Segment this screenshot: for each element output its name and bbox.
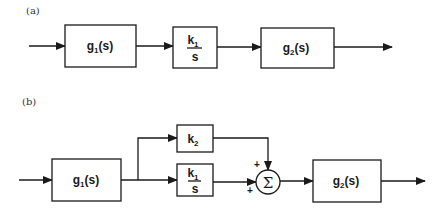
block-k1-over-s-a: k1 s <box>173 27 217 68</box>
block-diagram-canvas: (a) g1(s) k1 s g2(s) <box>0 0 446 219</box>
block-g2-a-arg: (s) <box>295 41 310 55</box>
block-g1-a: g1(s) <box>65 25 136 67</box>
plus-sign-left: + <box>247 185 253 196</box>
block-g2-b-name: g <box>333 174 340 188</box>
block-k2-b: k2 <box>177 125 213 152</box>
panel-b: (b) g1(s) k2 k1 s <box>19 96 425 202</box>
svg-text:g1(s): g1(s) <box>73 173 99 189</box>
block-g2-b-arg: (s) <box>345 174 360 188</box>
panel-a-label: (a) <box>26 5 40 16</box>
block-k2-sub: 2 <box>194 139 199 148</box>
block-g1-b-arg: (s) <box>85 173 100 187</box>
svg-text:g2(s): g2(s) <box>283 41 309 57</box>
block-g2-a: g2(s) <box>261 28 334 68</box>
sigma-icon: Σ <box>263 174 274 192</box>
svg-text:g1(s): g1(s) <box>87 39 113 55</box>
summing-junction: Σ <box>256 170 280 194</box>
block-g1-b: g1(s) <box>52 159 121 201</box>
panel-b-label: (b) <box>22 96 36 107</box>
svg-text:g2(s): g2(s) <box>333 174 359 190</box>
block-k1-over-s-b: k1 s <box>177 164 213 196</box>
block-g2-a-name: g <box>283 41 290 55</box>
block-g1-b-name: g <box>73 173 80 187</box>
block-k1s-b-den: s <box>192 182 199 196</box>
branch-arrow-to-k2 <box>138 138 177 180</box>
block-k1s-a-den: s <box>192 50 199 64</box>
plus-sign-top: + <box>254 159 260 170</box>
block-g1-a-arg: (s) <box>99 39 114 53</box>
block-g2-b: g2(s) <box>313 160 381 202</box>
panel-a: (a) g1(s) k1 s g2(s) <box>26 5 392 68</box>
block-g1-a-name: g <box>87 39 94 53</box>
